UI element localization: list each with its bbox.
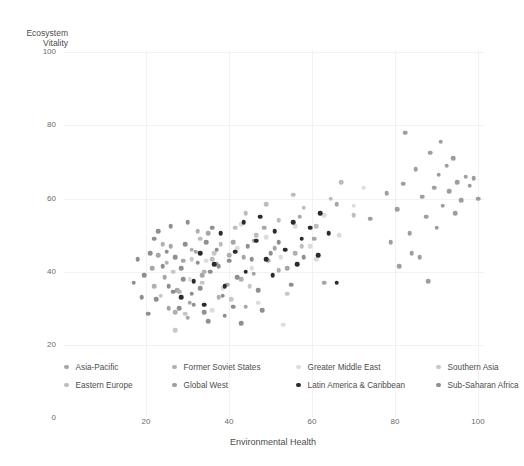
data-point: [254, 233, 259, 238]
data-point: [407, 231, 412, 236]
data-point: [171, 269, 176, 274]
legend-item-label: Sub-Saharan Africa: [448, 381, 519, 390]
data-point: [160, 242, 165, 247]
data-point: [202, 310, 207, 315]
data-point: [245, 244, 250, 249]
data-point: [177, 306, 182, 311]
data-point: [152, 236, 157, 241]
data-point: [173, 255, 178, 260]
data-point: [453, 211, 458, 216]
legend-item[interactable]: Southern Asia: [436, 363, 524, 372]
y-axis-title: Ecosystem Vitality: [26, 28, 68, 48]
data-point: [467, 183, 472, 188]
data-point: [239, 321, 244, 326]
data-point: [156, 253, 161, 258]
data-point: [250, 257, 255, 262]
data-point: [214, 247, 219, 252]
data-point: [368, 216, 373, 221]
data-point: [447, 189, 452, 194]
data-point: [229, 297, 234, 302]
data-point: [150, 266, 155, 271]
data-point: [135, 257, 140, 262]
data-point: [164, 249, 169, 254]
data-point: [233, 249, 238, 254]
data-point: [142, 273, 147, 278]
data-point: [445, 163, 450, 168]
data-point: [241, 255, 246, 260]
data-point: [440, 204, 445, 209]
data-point: [191, 279, 196, 284]
data-point: [243, 304, 248, 309]
x-axis-tick-label: 80: [375, 417, 415, 426]
legend-item[interactable]: Sub-Saharan Africa: [436, 381, 524, 390]
gridline-horizontal: [64, 52, 484, 53]
data-point: [164, 260, 169, 265]
data-point: [189, 247, 194, 252]
data-point: [395, 207, 400, 212]
data-point: [299, 236, 304, 241]
data-point: [179, 266, 184, 271]
data-point: [167, 284, 172, 289]
data-point: [326, 231, 331, 236]
data-point: [243, 269, 248, 274]
x-axis-tick-label: 100: [458, 417, 498, 426]
data-point: [293, 251, 298, 256]
data-point: [285, 266, 290, 271]
data-point: [158, 293, 163, 298]
x-axis-tick-label: 40: [209, 417, 249, 426]
legend-item-label: Global West: [184, 381, 228, 390]
legend-marker-icon: [172, 383, 177, 388]
data-point: [204, 258, 209, 263]
data-point: [401, 182, 406, 187]
data-point: [295, 262, 300, 267]
data-point: [308, 226, 313, 231]
legend-item[interactable]: Former Soviet States: [172, 363, 296, 372]
data-point: [223, 284, 228, 289]
data-point: [322, 280, 327, 285]
data-point: [281, 323, 286, 328]
data-point: [277, 218, 282, 223]
data-point: [160, 264, 165, 269]
legend-item[interactable]: Latin America & Caribbean: [296, 381, 436, 390]
data-point: [241, 220, 246, 225]
legend-item[interactable]: Global West: [172, 381, 296, 390]
data-point: [206, 231, 211, 236]
data-point: [148, 251, 153, 256]
data-point: [227, 253, 232, 258]
data-point: [146, 312, 151, 317]
data-point: [318, 211, 323, 216]
data-point: [264, 235, 269, 240]
data-point: [299, 244, 304, 249]
legend-item[interactable]: Greater Middle East: [296, 363, 436, 372]
data-point: [206, 319, 211, 324]
data-point: [208, 269, 213, 274]
legend-item[interactable]: Asia-Pacific: [64, 363, 172, 372]
data-point: [277, 268, 282, 273]
y-axis-tick-label: 0: [22, 413, 56, 422]
y-axis-tick-label: 80: [22, 120, 56, 129]
data-point: [270, 273, 275, 278]
data-point: [204, 240, 209, 245]
data-point: [243, 211, 248, 216]
data-point: [291, 220, 296, 225]
data-point: [183, 242, 188, 247]
data-point: [218, 242, 223, 247]
data-point: [200, 280, 205, 285]
data-point: [233, 226, 238, 231]
data-point: [262, 226, 267, 231]
data-point: [420, 194, 425, 199]
data-point: [260, 308, 265, 313]
legend-marker-icon: [296, 365, 301, 370]
legend-marker-icon: [296, 383, 301, 388]
data-point: [426, 279, 431, 284]
legend-item[interactable]: Eastern Europe: [64, 381, 172, 390]
data-point: [436, 172, 441, 177]
gridline-horizontal: [64, 125, 484, 126]
data-point: [459, 198, 464, 203]
data-point: [198, 236, 203, 241]
data-point: [154, 297, 159, 302]
x-axis-title-container: Environmental Health: [0, 437, 506, 447]
data-point: [140, 295, 145, 300]
data-point: [169, 244, 174, 249]
data-point: [198, 251, 203, 256]
